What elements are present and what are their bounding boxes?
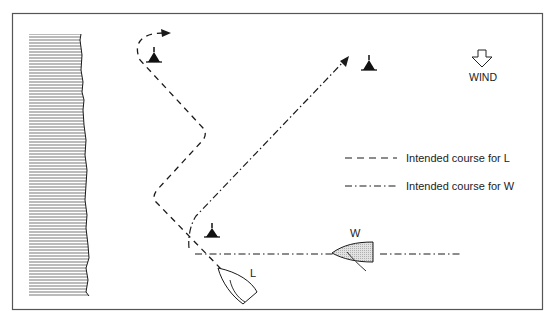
- wind-arrow-icon: [472, 50, 492, 67]
- boat-w-label: W: [350, 227, 361, 239]
- mark-bottom-icon: [204, 223, 220, 237]
- boat-l-label: L: [250, 267, 256, 279]
- mark-top-left-icon: [146, 47, 162, 62]
- wind-label: WIND: [469, 71, 497, 83]
- legend-label-w: Intended course for W: [406, 180, 515, 192]
- mark-top-right-icon: [361, 55, 377, 70]
- boat-w-icon: [332, 242, 373, 271]
- course-l-arrowhead-icon: [161, 29, 171, 37]
- shoreline: [29, 34, 89, 296]
- course-w-arrowhead-icon: [340, 56, 349, 67]
- sailing-rules-diagram: WIND Intended course for L Intended cour…: [0, 0, 556, 324]
- legend-label-l: Intended course for L: [406, 152, 510, 164]
